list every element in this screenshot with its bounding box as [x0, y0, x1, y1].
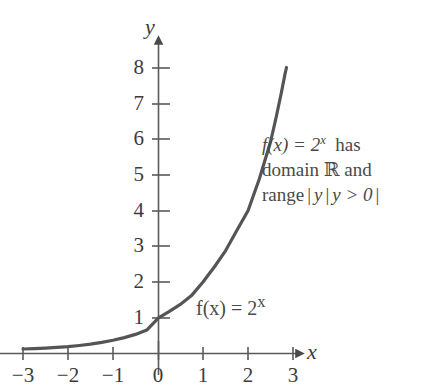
y-tick-label-4: 4 [118, 200, 144, 221]
y-tick-label-8: 8 [118, 57, 144, 78]
x-axis-ticks [23, 341, 293, 360]
y-tick-label-2: 2 [118, 271, 144, 292]
x-tick-label-3: 3 [273, 365, 313, 386]
curve-equation-text: f(x) = 2 [196, 297, 257, 319]
function-description-annotation: f(x) = 2x has domain ℝ and range|y|y > 0… [262, 133, 382, 207]
x-tick-label-neg3: −3 [3, 365, 43, 386]
x-tick-label-0: 0 [138, 365, 178, 386]
y-tick-label-5: 5 [118, 164, 144, 185]
annotation-line-2: domain ℝ and [262, 157, 382, 182]
annotation-domain-word: domain [262, 159, 319, 180]
y-tick-label-7: 7 [118, 93, 144, 114]
x-tick-label-1: 1 [183, 365, 223, 386]
exponential-function-figure: y x −3 −2 −1 0 1 2 3 1 2 3 4 5 6 7 8 f(x… [0, 0, 423, 388]
set-condition: y > 0 [332, 184, 372, 205]
annotation-and-word: and [344, 159, 371, 180]
curve-equation-label: f(x) = 2x [196, 292, 266, 320]
set-variable: y [314, 184, 322, 205]
annotation-range-word: range [262, 184, 304, 205]
annotation-line-1: f(x) = 2x has [262, 133, 382, 157]
x-tick-label-2: 2 [228, 365, 268, 386]
set-open-bracket: | [304, 183, 314, 207]
y-tick-label-6: 6 [118, 128, 144, 149]
y-axis-label: y [145, 16, 155, 38]
x-axis-label: x [307, 341, 317, 363]
y-tick-label-3: 3 [118, 235, 144, 256]
annotation-line-3: range|y|y > 0| [262, 183, 382, 207]
real-numbers-symbol: ℝ [324, 158, 340, 180]
curve-equation-exponent: x [257, 292, 265, 311]
x-tick-label-neg1: −1 [93, 365, 133, 386]
annotation-has-word: has [335, 134, 360, 155]
annotation-formula-exponent: x [320, 133, 326, 147]
x-tick-label-neg2: −2 [48, 365, 88, 386]
annotation-formula: f(x) = 2 [262, 134, 320, 155]
set-divider-bar: | [322, 183, 332, 207]
set-close-bracket: | [373, 183, 383, 207]
y-axis-ticks [152, 68, 170, 318]
y-tick-label-1: 1 [118, 307, 144, 328]
